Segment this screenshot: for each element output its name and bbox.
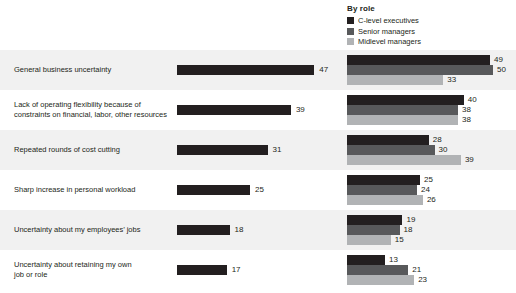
- by-role-bar-row: 33: [347, 75, 506, 85]
- total-value-label: 31: [273, 145, 282, 155]
- by-role-bar-row: 15: [347, 235, 415, 245]
- total-bar-group: 25: [177, 170, 264, 210]
- legend-item-label: C-level executives: [358, 16, 419, 25]
- chart-row: Uncertainty about my employees’ jobs1819…: [0, 210, 516, 250]
- legend-item-label: Midlevel managers: [358, 37, 421, 46]
- total-bar: [177, 185, 250, 195]
- by-role-value-label: 25: [424, 175, 433, 185]
- chart-row: Sharp increase in personal workload25252…: [0, 170, 516, 210]
- total-value-label: 47: [319, 65, 328, 75]
- total-bar: [177, 105, 291, 115]
- row-label: Lack of operating flexibility because of…: [14, 90, 174, 130]
- by-role-bar: [347, 175, 420, 185]
- chart-rows: General business uncertainty47495033Lack…: [0, 50, 516, 290]
- total-bar-group: 47: [177, 50, 328, 90]
- by-role-bar-row: 23: [347, 275, 427, 285]
- row-label: Sharp increase in personal workload: [14, 170, 174, 210]
- by-role-bar-row: 18: [347, 225, 415, 235]
- by-role-bar-row: 25: [347, 175, 436, 185]
- by-role-value-label: 15: [395, 235, 404, 245]
- by-role-bar-group: 403838: [347, 90, 477, 130]
- by-role-bar: [347, 75, 443, 85]
- row-label: Uncertainty about my employees’ jobs: [14, 210, 174, 250]
- legend-swatch-icon: [347, 28, 354, 35]
- by-role-value-label: 39: [465, 155, 474, 165]
- by-role-value-label: 23: [418, 275, 427, 285]
- total-bar: [177, 65, 314, 75]
- by-role-bar: [347, 155, 461, 165]
- total-bar-group: 17: [177, 250, 241, 290]
- legend: By role C-level executivesSenior manager…: [347, 4, 512, 48]
- legend-item-1[interactable]: Senior managers: [347, 27, 512, 36]
- legend-title: By role: [347, 4, 512, 13]
- by-role-bar: [347, 135, 429, 145]
- by-role-value-label: 38: [462, 115, 471, 125]
- by-role-bar-row: 28: [347, 135, 474, 145]
- by-role-bar-group: 252426: [347, 170, 436, 210]
- row-label: Uncertainty about retaining my ownjob or…: [14, 250, 174, 290]
- by-role-value-label: 49: [494, 55, 503, 65]
- by-role-value-label: 13: [389, 255, 398, 265]
- total-value-label: 18: [235, 225, 244, 235]
- chart-row: Lack of operating flexibility because of…: [0, 90, 516, 130]
- by-role-value-label: 24: [421, 185, 430, 195]
- by-role-bar: [347, 145, 435, 155]
- by-role-bar-row: 21: [347, 265, 427, 275]
- chart-row: General business uncertainty47495033: [0, 50, 516, 90]
- by-role-bar-row: 24: [347, 185, 436, 195]
- total-bar-group: 39: [177, 90, 305, 130]
- by-role-bar: [347, 215, 402, 225]
- legend-swatch-icon: [347, 17, 354, 24]
- by-role-bar-row: 26: [347, 195, 436, 205]
- total-bar: [177, 265, 227, 275]
- by-role-bar-group: 495033: [347, 50, 506, 90]
- by-role-bar: [347, 225, 400, 235]
- legend-item-0[interactable]: C-level executives: [347, 16, 512, 25]
- by-role-value-label: 26: [427, 195, 436, 205]
- by-role-value-label: 30: [439, 145, 448, 155]
- legend-swatch-icon: [347, 38, 354, 45]
- by-role-bar-row: 38: [347, 105, 477, 115]
- by-role-value-label: 28: [433, 135, 442, 145]
- total-value-label: 39: [296, 105, 305, 115]
- by-role-bar: [347, 195, 423, 205]
- legend-item-label: Senior managers: [358, 27, 415, 36]
- by-role-bar: [347, 255, 385, 265]
- by-role-bar: [347, 235, 391, 245]
- by-role-bar-row: 50: [347, 65, 506, 75]
- by-role-bar-group: 132123: [347, 250, 427, 290]
- by-role-bar-row: 13: [347, 255, 427, 265]
- by-role-bar: [347, 95, 464, 105]
- by-role-bar-row: 19: [347, 215, 415, 225]
- by-role-bar: [347, 115, 458, 125]
- by-role-bar-row: 30: [347, 145, 474, 155]
- by-role-bar-row: 40: [347, 95, 477, 105]
- by-role-value-label: 50: [497, 65, 506, 75]
- chart-row: Uncertainty about retaining my ownjob or…: [0, 250, 516, 290]
- total-bar: [177, 225, 230, 235]
- by-role-value-label: 18: [404, 225, 413, 235]
- by-role-bar: [347, 275, 414, 285]
- by-role-bar: [347, 55, 490, 65]
- total-bar-group: 18: [177, 210, 243, 250]
- by-role-bar: [347, 105, 458, 115]
- legend-item-2[interactable]: Midlevel managers: [347, 37, 512, 46]
- by-role-value-label: 21: [412, 265, 421, 275]
- by-role-bar-group: 283039: [347, 130, 474, 170]
- by-role-bar: [347, 265, 408, 275]
- by-role-value-label: 33: [447, 75, 456, 85]
- chart-row: Repeated rounds of cost cutting31283039: [0, 130, 516, 170]
- row-label: General business uncertainty: [14, 50, 174, 90]
- by-role-bar-row: 39: [347, 155, 474, 165]
- grouped-bar-chart: By role C-level executivesSenior manager…: [0, 0, 516, 293]
- total-bar: [177, 145, 268, 155]
- by-role-value-label: 19: [406, 215, 415, 225]
- by-role-bar-group: 191815: [347, 210, 415, 250]
- by-role-value-label: 38: [462, 105, 471, 115]
- by-role-value-label: 40: [468, 95, 477, 105]
- total-value-label: 17: [232, 265, 241, 275]
- by-role-bar: [347, 65, 493, 75]
- row-label: Repeated rounds of cost cutting: [14, 130, 174, 170]
- by-role-bar-row: 49: [347, 55, 506, 65]
- total-bar-group: 31: [177, 130, 281, 170]
